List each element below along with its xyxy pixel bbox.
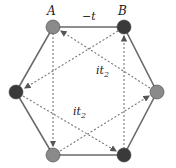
hexagon-diagram [0, 0, 176, 168]
nnn-hopping-arrows [23, 31, 150, 151]
label-nnn-hopping-upper: it2 [96, 65, 109, 79]
hexagon-edges [16, 27, 157, 155]
site-b-bottom [117, 148, 131, 162]
nnn-label-text: it [73, 105, 81, 118]
site-b-left [9, 85, 23, 99]
nnn-label-sub: 2 [81, 111, 86, 120]
site-a-bottom [46, 148, 60, 162]
label-site-a: A [47, 5, 56, 17]
site-b-top [117, 20, 131, 34]
lattice-sites [9, 20, 164, 162]
site-a-top [46, 20, 60, 34]
label-nn-hopping: −t [82, 11, 96, 22]
nnn-label-text: it [96, 64, 104, 77]
site-a-right [150, 85, 164, 99]
label-site-b: B [118, 5, 127, 17]
nnn-label-sub: 2 [104, 70, 109, 79]
label-nnn-hopping-lower: it2 [73, 106, 86, 120]
